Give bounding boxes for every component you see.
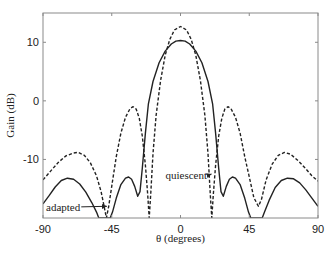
series-layer [43,27,318,219]
x-tick-label: -90 [35,223,51,235]
x-tick-label: 90 [312,223,324,235]
plot-area: -90-4504590-10010 quiescentadapted [23,13,324,235]
y-axis-title: Gain (dB) [4,93,17,138]
y-tick-label: 0 [33,95,39,107]
x-axis-title: θ (degrees) [156,232,205,245]
series-adapted-line [43,41,318,219]
y-tick-label: 10 [27,36,39,48]
x-tick-label: -45 [104,223,120,235]
y-tick-label: -10 [23,153,39,165]
annotation-layer: quiescentadapted [46,169,212,213]
beam-pattern-chart: -90-4504590-10010 quiescentadapted θ (de… [0,0,334,254]
annotation-quiescent-label: quiescent [166,169,208,181]
annotation-adapted-label: adapted [46,201,81,213]
annotation-quiescent-arrow [208,174,212,175]
x-tick-label: 45 [243,223,255,235]
annotation-adapted-arrow [81,206,107,207]
plot-frame [43,13,318,218]
